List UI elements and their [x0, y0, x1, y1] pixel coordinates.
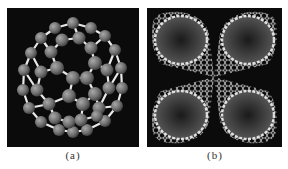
- nanotube-image-panel: [147, 8, 282, 147]
- fullerene-image-panel: [7, 8, 139, 147]
- caption-a: (a): [43, 149, 103, 161]
- fullerene-molecule-illustration: [7, 8, 139, 147]
- nanotube-illustration: [147, 8, 282, 147]
- caption-b: (b): [185, 149, 245, 161]
